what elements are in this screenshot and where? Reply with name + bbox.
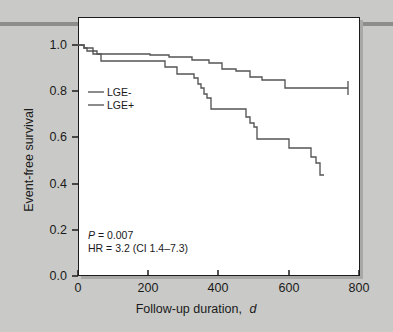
- survival-chart: 0 200 400 600 800 1.0 0.8 0.6 0.4 0.2 0.…: [0, 0, 393, 332]
- annotation-hazard-ratio: HR = 3.2 (CI 1.4–7.3): [88, 242, 188, 254]
- y-axis-ticks: [72, 45, 78, 276]
- x-tick-label-2: 400: [208, 281, 229, 295]
- x-tick-label-0: 0: [75, 281, 82, 295]
- x-tick-label-3: 600: [279, 281, 300, 295]
- annotation-p-value: P = 0.007: [88, 229, 133, 241]
- y-tick-label-0.0: 0.0: [50, 269, 67, 283]
- x-axis-title-text: Follow-up duration,: [136, 302, 242, 316]
- x-axis-ticks: [78, 270, 359, 276]
- curve-lge-negative: [78, 45, 348, 88]
- y-axis-tick-labels: 1.0 0.8 0.6 0.4 0.2 0.0: [50, 38, 67, 283]
- statistics-annotations: P = 0.007 HR = 3.2 (CI 1.4–7.3): [88, 229, 188, 254]
- legend-label-lge-positive: LGE+: [107, 99, 134, 111]
- legend-label-lge-negative: LGE-: [107, 86, 132, 98]
- x-axis-tick-labels: 0 200 400 600 800: [75, 281, 370, 295]
- legend: LGE- LGE+: [88, 86, 134, 111]
- x-tick-label-1: 200: [138, 281, 159, 295]
- x-axis-title: Follow-up duration, d: [136, 302, 258, 316]
- svg-text:Follow-up duration, d: Follow-up duration, d: [136, 302, 258, 316]
- y-tick-label-0.6: 0.6: [50, 130, 67, 144]
- figure-canvas: 0 200 400 600 800 1.0 0.8 0.6 0.4 0.2 0.…: [0, 0, 393, 332]
- y-tick-label-0.2: 0.2: [50, 223, 67, 237]
- x-axis-title-unit: d: [249, 302, 257, 316]
- annotation-p-text: = 0.007: [95, 229, 133, 241]
- y-tick-label-1.0: 1.0: [50, 38, 67, 52]
- y-axis-title: Event-free survival: [22, 108, 36, 212]
- x-tick-label-4: 800: [349, 281, 370, 295]
- annotation-p-symbol: P: [88, 229, 95, 241]
- y-tick-label-0.4: 0.4: [50, 177, 67, 191]
- y-tick-label-0.8: 0.8: [50, 84, 67, 98]
